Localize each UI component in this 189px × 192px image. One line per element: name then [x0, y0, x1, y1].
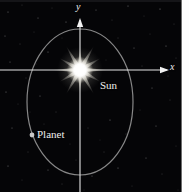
right-border-line: [181, 0, 182, 192]
diagram-layer: [0, 0, 182, 192]
y-axis: [77, 18, 83, 192]
orbit-diagram-figure: Sun Planet y x: [0, 0, 189, 192]
y-axis-label: y: [76, 1, 80, 12]
sun-center: [75, 65, 85, 75]
planet-marker: [30, 133, 35, 138]
space-background: Sun Planet y: [0, 0, 182, 192]
top-edge-shade: [0, 0, 182, 2]
right-margin: [183, 0, 189, 192]
planet-label: Planet: [37, 128, 65, 140]
sun-label: Sun: [100, 79, 117, 91]
x-axis-label: x: [170, 61, 174, 72]
